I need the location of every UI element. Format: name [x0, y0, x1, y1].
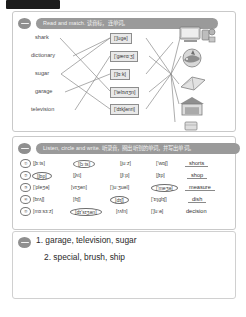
answer-4[interactable]: dish [188, 196, 206, 204]
option-5-3[interactable]: [rʌfn] [116, 208, 128, 214]
option-4-4[interactable]: ['ɪŋglɪʃ] [151, 196, 167, 202]
answer-line-1: 1. garage, television, sugar [36, 235, 137, 245]
option-2-1[interactable]: [ʃɒp] [32, 172, 52, 180]
match-word-television[interactable]: television [31, 106, 54, 112]
phonetic-box-1[interactable]: ['ʃugə] [110, 33, 132, 44]
option-1-1[interactable]: [ʃɜːts] [33, 160, 45, 166]
option-3-4[interactable]: ['meʒə] [151, 184, 178, 192]
answer-3[interactable]: measure [185, 184, 215, 192]
exercise-2-card: Listen, circle and write. 听录音，圈出听到的单词，并写… [12, 136, 236, 230]
listen-row-1: ① [ʃɜːts] [ʃɔːts] [juːz] ['wɒʃ] shorts [20, 158, 228, 169]
option-5-1[interactable]: [mɜːsɜːz] [33, 208, 53, 214]
answer-line-2: 2. special, brush, ship [44, 252, 125, 262]
listen-row-4: ④ [brʌʃ] [fɪʃ] [dɪʃ] ['ɪŋglɪʃ] dish [20, 194, 228, 205]
match-word-sugar[interactable]: sugar [35, 70, 49, 76]
phonetic-box-3[interactable]: ['ʃɑːk] [110, 69, 130, 80]
answers-card: 1. garage, television, sugar 2. special,… [12, 231, 236, 299]
answer-2[interactable]: shop [187, 172, 207, 180]
option-1-3[interactable]: [juːz] [120, 160, 131, 166]
row-number-2: ② [20, 171, 31, 180]
row-number-4: ④ [20, 195, 31, 204]
exercise-2-number-icon [18, 143, 31, 154]
worksheet-page: Read and match. 读音标，连单词。 s [0, 0, 246, 317]
phonetic-box-2[interactable]: ['gærɑːʒ] [110, 51, 138, 62]
top-black-tab [6, 0, 60, 9]
listen-row-2: ② [ʃɒp] [ʃʌt] [ʃiːp] [ʃɪp] shop [20, 170, 228, 181]
option-1-4[interactable]: ['wɒʃ] [156, 160, 168, 166]
option-4-3[interactable]: [dɪʃ] [110, 196, 129, 204]
exercise-2-title: Listen, circle and write. 听录音，圈出听到的单词，并写… [36, 143, 240, 154]
phonetic-box-4[interactable]: ['telɪvɪʒn] [110, 87, 139, 98]
option-5-2[interactable]: [dɪ'sɪʒən] [70, 208, 102, 216]
answer-5[interactable]: decision [182, 208, 211, 215]
row-number-3: ③ [20, 183, 31, 192]
option-3-2[interactable]: [vɪʒən] [71, 184, 87, 190]
option-3-3[interactable]: ['juːʒuəl] [110, 184, 129, 190]
answers-bullet-icon [18, 237, 31, 248]
option-2-3[interactable]: [ʃiːp] [120, 172, 130, 178]
option-2-2[interactable]: [ʃʌt] [73, 172, 81, 178]
television-icon [179, 25, 217, 49]
row-number-1: ① [20, 159, 31, 168]
option-4-1[interactable]: [brʌʃ] [33, 196, 44, 202]
phonetic-box-5[interactable]: ['dɪkʃənri] [110, 104, 139, 115]
answer-1[interactable]: shorts [185, 160, 208, 168]
option-4-2[interactable]: [fɪʃ] [73, 196, 80, 202]
listen-row-3: ③ ['pleʒə] [vɪʒən] ['juːʒuəl] ['meʒə] me… [20, 182, 228, 193]
option-2-4[interactable]: [ʃɪp] [156, 172, 165, 178]
shark-icon [181, 48, 203, 72]
listen-row-5: ⑤ [mɜːsɜːz] [dɪ'sɪʒən] [rʌfn] ['ʃuːə] de… [20, 206, 228, 217]
option-5-4[interactable]: ['ʃuːə] [151, 208, 163, 214]
exercise-1-card: Read and match. 读音标，连单词。 s [12, 11, 236, 132]
match-word-shark[interactable]: shark [35, 34, 49, 40]
row-number-5: ⑤ [20, 207, 31, 216]
dictionary-icon [179, 74, 207, 96]
option-1-2[interactable]: [ʃɔːts] [73, 160, 95, 168]
option-3-1[interactable]: ['pleʒə] [33, 184, 50, 190]
sugar-icon [183, 117, 199, 135]
match-word-dictionary[interactable]: dictionary [31, 52, 55, 58]
match-word-garage[interactable]: garage [35, 88, 52, 94]
